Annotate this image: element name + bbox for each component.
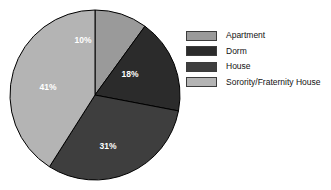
pie-chart-plot-area: 10%18%31%41% (0, 0, 190, 190)
legend-item-label: Sorority/Fraternity House (226, 77, 320, 88)
legend-item[interactable]: Dorm (186, 46, 331, 57)
chart-legend: ApartmentDormHouseSorority/Fraternity Ho… (186, 30, 331, 92)
legend-item[interactable]: Sorority/Fraternity House (186, 77, 331, 88)
pie-slice-group (10, 10, 180, 180)
legend-color-swatch (186, 77, 217, 87)
pie-slice-value-label: 18% (121, 69, 138, 79)
legend-color-swatch (186, 31, 217, 41)
legend-item[interactable]: House (186, 61, 331, 72)
legend-color-swatch (186, 46, 217, 56)
legend-item-label: House (226, 61, 251, 72)
pie-chart-figure: 10%18%31%41% ApartmentDormHouseSorority/… (0, 0, 331, 190)
legend-item-label: Dorm (226, 46, 247, 57)
legend-item[interactable]: Apartment (186, 30, 331, 41)
pie-slice-value-label: 10% (74, 35, 91, 45)
pie-slice-value-label: 31% (99, 141, 116, 151)
pie-chart-svg: 10%18%31%41% (0, 0, 190, 190)
pie-slice-value-label: 41% (39, 82, 56, 92)
legend-color-swatch (186, 62, 217, 72)
legend-item-label: Apartment (226, 30, 265, 41)
